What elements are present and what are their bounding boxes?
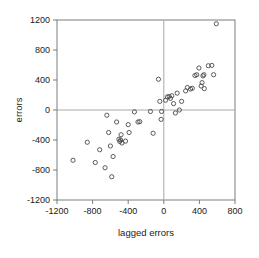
x-tick-label: 800 — [227, 206, 242, 216]
y-axis-ticks — [53, 20, 57, 200]
plot-canvas: -1200-800-4000400800 -1200-800-400040080… — [0, 0, 259, 258]
x-axis-title: lagged errors — [118, 227, 174, 238]
y-tick-label: -400 — [32, 135, 50, 145]
y-tick-label: 1200 — [30, 15, 50, 25]
x-tick-label: -800 — [84, 206, 102, 216]
y-tick-label: 800 — [35, 45, 50, 55]
x-axis-tick-labels: -1200-800-4000400800 — [45, 206, 242, 216]
x-tick-label: 0 — [161, 206, 166, 216]
y-tick-label: 400 — [35, 75, 50, 85]
x-tick-label: 400 — [192, 206, 207, 216]
scatter-plot-figure: -1200-800-4000400800 -1200-800-400040080… — [0, 0, 259, 258]
x-tick-label: -1200 — [45, 206, 68, 216]
y-tick-label: 0 — [45, 105, 50, 115]
y-axis-title: errors — [13, 97, 24, 122]
y-tick-label: -800 — [32, 165, 50, 175]
y-axis-tick-labels: -1200-800-40004008001200 — [27, 15, 50, 205]
x-tick-label: -400 — [119, 206, 137, 216]
x-axis-ticks — [57, 200, 235, 204]
y-tick-label: -1200 — [27, 195, 50, 205]
